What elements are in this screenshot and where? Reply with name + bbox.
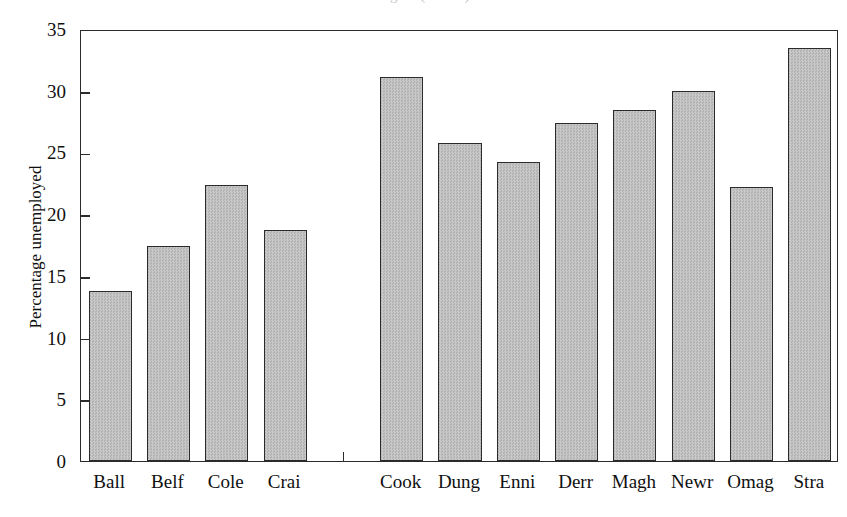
x-axis-tick-label: Cook bbox=[372, 472, 430, 491]
bar bbox=[205, 185, 248, 461]
x-axis-tick-label: Stra bbox=[780, 472, 838, 491]
bar bbox=[730, 187, 773, 461]
bar bbox=[380, 77, 423, 461]
y-axis-tick-label: 10 bbox=[26, 329, 66, 348]
y-axis-tick-label: 5 bbox=[26, 390, 66, 409]
y-axis-tick-label: 0 bbox=[26, 452, 66, 471]
x-axis-tick-label: Enni bbox=[488, 472, 546, 491]
chart-title-text: Figure (cut off) bbox=[0, 0, 847, 4]
bar bbox=[613, 110, 656, 461]
y-axis-tick-mark bbox=[81, 154, 90, 156]
x-axis-tick-label: Derr bbox=[546, 472, 604, 491]
y-axis-tick-label: 35 bbox=[26, 20, 66, 39]
bar bbox=[788, 48, 831, 461]
bar bbox=[497, 162, 540, 461]
y-axis-tick-label: 20 bbox=[26, 205, 66, 224]
chart-title-cropped: Figure (cut off) bbox=[0, 0, 847, 9]
chart-page: Figure (cut off) Percentage unemployed 0… bbox=[0, 0, 847, 517]
x-axis-tick-label: Crai bbox=[255, 472, 313, 491]
x-axis-tick-label: Newr bbox=[663, 472, 721, 491]
bar bbox=[672, 91, 715, 461]
x-axis-tick-label: Dung bbox=[430, 472, 488, 491]
x-axis-tick-label: Omag bbox=[721, 472, 779, 491]
y-axis-title: Percentage unemployed bbox=[26, 132, 46, 362]
x-axis-tick-label: Cole bbox=[197, 472, 255, 491]
y-axis-tick-mark bbox=[81, 215, 90, 217]
plot-area bbox=[80, 30, 838, 462]
bar bbox=[89, 291, 132, 461]
x-axis-tick-label: Ball bbox=[80, 472, 138, 491]
x-axis-tick-label: Magh bbox=[605, 472, 663, 491]
x-axis-tick-mark bbox=[343, 452, 345, 461]
bar bbox=[147, 246, 190, 461]
y-axis-tick-label: 30 bbox=[26, 82, 66, 101]
y-axis-tick-mark bbox=[81, 92, 90, 94]
bar bbox=[264, 230, 307, 461]
y-axis-tick-mark bbox=[81, 277, 90, 279]
bar bbox=[438, 143, 481, 461]
x-axis-tick-label: Belf bbox=[138, 472, 196, 491]
y-axis-tick-label: 25 bbox=[26, 143, 66, 162]
y-axis-tick-label: 15 bbox=[26, 267, 66, 286]
bar bbox=[555, 123, 598, 461]
